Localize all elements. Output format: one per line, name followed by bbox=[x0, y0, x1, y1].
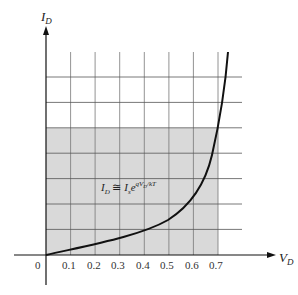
y-axis-label: ID bbox=[40, 9, 52, 26]
svg-text:0.5: 0.5 bbox=[160, 259, 174, 271]
svg-text:0.2: 0.2 bbox=[87, 259, 101, 271]
x-axis-arrow-icon bbox=[267, 252, 276, 258]
svg-text:0.4: 0.4 bbox=[136, 259, 150, 271]
x-axis-label: VD bbox=[279, 250, 294, 267]
y-axis-arrow-icon bbox=[43, 26, 49, 35]
svg-text:0.3: 0.3 bbox=[111, 259, 125, 271]
svg-text:0.6: 0.6 bbox=[185, 259, 199, 271]
x-tick-labels: 0.1 0.2 0.3 0.4 0.5 0.6 0.7 bbox=[62, 259, 223, 271]
svg-text:0.1: 0.1 bbox=[62, 259, 76, 271]
diode-iv-chart: ID VD 0 0.1 0.2 0.3 0.4 0.5 0.6 0.7 ID ≅… bbox=[0, 0, 298, 295]
svg-text:0.7: 0.7 bbox=[209, 259, 223, 271]
origin-label: 0 bbox=[35, 259, 41, 271]
